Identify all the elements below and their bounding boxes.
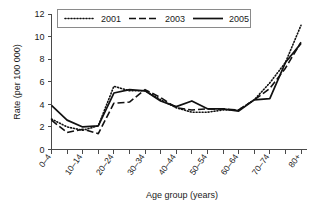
y-tick-label: 6	[39, 77, 44, 87]
chart-figure: 024681012 0–410–1420–2430–3440–4450–5460…	[0, 0, 316, 216]
y-tick-label: 4	[39, 100, 44, 110]
y-axis-title: Rate (per 100 000)	[12, 44, 22, 120]
legend-label-2003: 2003	[165, 14, 185, 24]
legend-label-2001: 2001	[101, 14, 121, 24]
legend-label-2005: 2005	[229, 14, 249, 24]
legend: 200120032005	[58, 10, 251, 28]
y-tick-label: 12	[34, 9, 44, 19]
y-tick-label: 10	[34, 32, 44, 42]
x-axis-title: Age group (years)	[146, 190, 218, 200]
y-tick-label: 2	[39, 122, 44, 132]
chart-background	[0, 0, 316, 216]
y-tick-label: 8	[39, 54, 44, 64]
line-chart: 024681012 0–410–1420–2430–3440–4450–5460…	[0, 0, 316, 216]
